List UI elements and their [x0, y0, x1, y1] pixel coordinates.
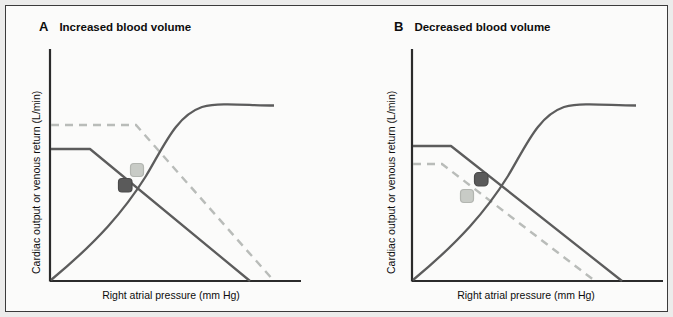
- panel-b-plot: [341, 6, 673, 313]
- figure-container: AIncreased blood volume Cardiac output o…: [0, 0, 673, 317]
- panel-b-normal-equilibrium-marker: [475, 173, 489, 187]
- panel-decreased-blood-volume: BDecreased blood volume Cardiac output o…: [341, 6, 669, 313]
- panel-b-decreased-volume-equilibrium-marker: [461, 190, 474, 203]
- figure-frame: AIncreased blood volume Cardiac output o…: [5, 5, 668, 312]
- panel-b-cardiac-output-curve: [413, 104, 636, 280]
- panel-increased-blood-volume: AIncreased blood volume Cardiac output o…: [6, 6, 341, 313]
- panel-a-cardiac-output-curve: [51, 104, 274, 280]
- panel-a-increased-volume-equilibrium-marker: [131, 164, 144, 177]
- panel-a-plot: [6, 6, 341, 313]
- panel-a-normal-equilibrium-marker: [119, 179, 133, 193]
